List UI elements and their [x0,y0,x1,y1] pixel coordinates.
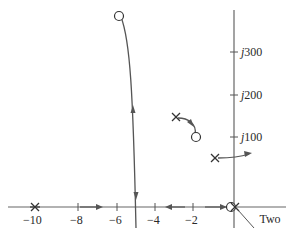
tick-label-minus4: −4 [147,213,160,228]
tick-label-j200: j200 [241,88,262,103]
root-locus-plot [0,0,291,228]
locus-arrow-down [134,192,139,200]
tick-label-j100: j100 [241,130,262,145]
tick-label-minus8: −8 [70,213,83,228]
two-poles-annotation: Two poles [252,212,288,228]
pole-x-complex [172,113,180,121]
annotation-line2: poles [252,227,288,228]
zero-circle-complex [192,133,201,142]
tick-label-minus6: −6 [109,213,122,228]
root-locus-diagram: −10 −8 −6 −4 −2 j100 j200 j300 Two poles [0,0,291,228]
tick-label-minus10: −10 [23,213,42,228]
pole-x-near-axis [211,154,219,162]
locus-arrow-up [131,105,136,113]
tick-label-minus2: −2 [185,213,198,228]
locus-arrow-near-axis [244,151,252,157]
tick-label-j300: j300 [241,45,262,60]
zero-circle-top [115,12,124,21]
pole-x-minus10 [30,203,40,211]
origin-circle [227,203,236,212]
locus-branch-vertical [121,17,136,228]
annotation-line1: Two [252,212,288,227]
